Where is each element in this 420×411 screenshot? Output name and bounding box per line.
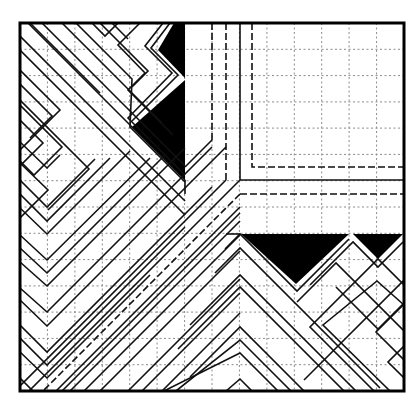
crease-pattern-diagram	[0, 0, 420, 411]
black-region-top-notch	[158, 23, 185, 78]
black-region-bottom-big	[241, 234, 349, 284]
black-region-bottom-small	[353, 234, 403, 259]
